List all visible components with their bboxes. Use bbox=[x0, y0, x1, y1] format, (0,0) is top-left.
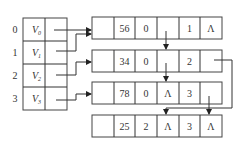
vertex-index: 3 bbox=[13, 93, 18, 104]
edge-node-rows: 56 0 1 Λ 34 0 2 78 0 Λ 3 25 2 Λ 3 Λ bbox=[92, 17, 222, 137]
node-cell: 56 bbox=[120, 23, 130, 34]
node-cell: 34 bbox=[120, 56, 130, 67]
vertex-index: 0 bbox=[13, 24, 18, 35]
vertex-table: 0 1 2 3 V0 V1 V2 V3 bbox=[13, 18, 68, 110]
node-cell: 3 bbox=[187, 121, 192, 132]
node-cell: Λ bbox=[164, 88, 172, 99]
node-cell: Λ bbox=[207, 23, 215, 34]
node-cell: 2 bbox=[187, 56, 192, 67]
node-cell: 1 bbox=[187, 23, 192, 34]
node-cell: 2 bbox=[144, 121, 149, 132]
node-cell: Λ bbox=[207, 121, 215, 132]
orthogonal-list-diagram: 0 1 2 3 V0 V1 V2 V3 56 0 1 Λ 3 bbox=[0, 0, 245, 147]
node-cell: 0 bbox=[144, 56, 149, 67]
vertex-index: 1 bbox=[13, 47, 18, 58]
node-cell: 25 bbox=[120, 121, 130, 132]
node-cell: 78 bbox=[120, 88, 130, 99]
vertex-index: 2 bbox=[13, 70, 18, 81]
node-cell: 3 bbox=[187, 88, 192, 99]
node-cell: Λ bbox=[164, 121, 172, 132]
node-cell: 0 bbox=[144, 23, 149, 34]
node-cell: 0 bbox=[144, 88, 149, 99]
